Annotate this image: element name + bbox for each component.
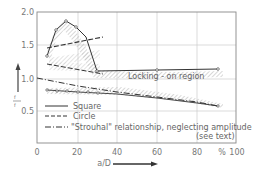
x-tick: 20 <box>72 148 82 157</box>
x-axis-label: a/D <box>97 159 111 168</box>
legend-square-label: Square <box>73 102 101 111</box>
x-tick: 100 <box>229 148 244 157</box>
x-tick: 40 <box>112 148 122 157</box>
x-axis: 0 20 40 60 80 % 100 a/D <box>34 148 244 168</box>
y-tick: 1.5 <box>21 41 34 50</box>
x-tick: 0 <box>34 148 39 157</box>
x-axis-arrowhead-icon <box>151 162 158 167</box>
legend: Square Circle "Strouhal" relationship, n… <box>45 102 252 141</box>
x-tick: 80 <box>192 148 202 157</box>
y-axis-label-den: f <box>14 102 16 108</box>
y-tick: 2.0 <box>21 8 34 17</box>
legend-strouhal-label: "Strouhal" relationship, neglecting ampl… <box>71 123 252 132</box>
y-axis-arrowhead-icon <box>16 63 21 70</box>
x-tick: 60 <box>152 148 162 157</box>
chart: Locking - on region Square Circle "Strou… <box>0 0 256 172</box>
y-tick: 0.5 <box>21 107 34 116</box>
y-axis: 2.0 1.5 1.0 0.5 f f <box>13 8 34 116</box>
y-axis-label-num: f <box>14 94 16 100</box>
legend-strouhal-note: (see text) <box>196 132 235 141</box>
y-tick: 1.0 <box>21 75 34 84</box>
x-unit: % <box>218 148 226 157</box>
locking-on-annotation: Locking - on region <box>128 72 204 81</box>
legend-circle-label: Circle <box>73 112 96 121</box>
